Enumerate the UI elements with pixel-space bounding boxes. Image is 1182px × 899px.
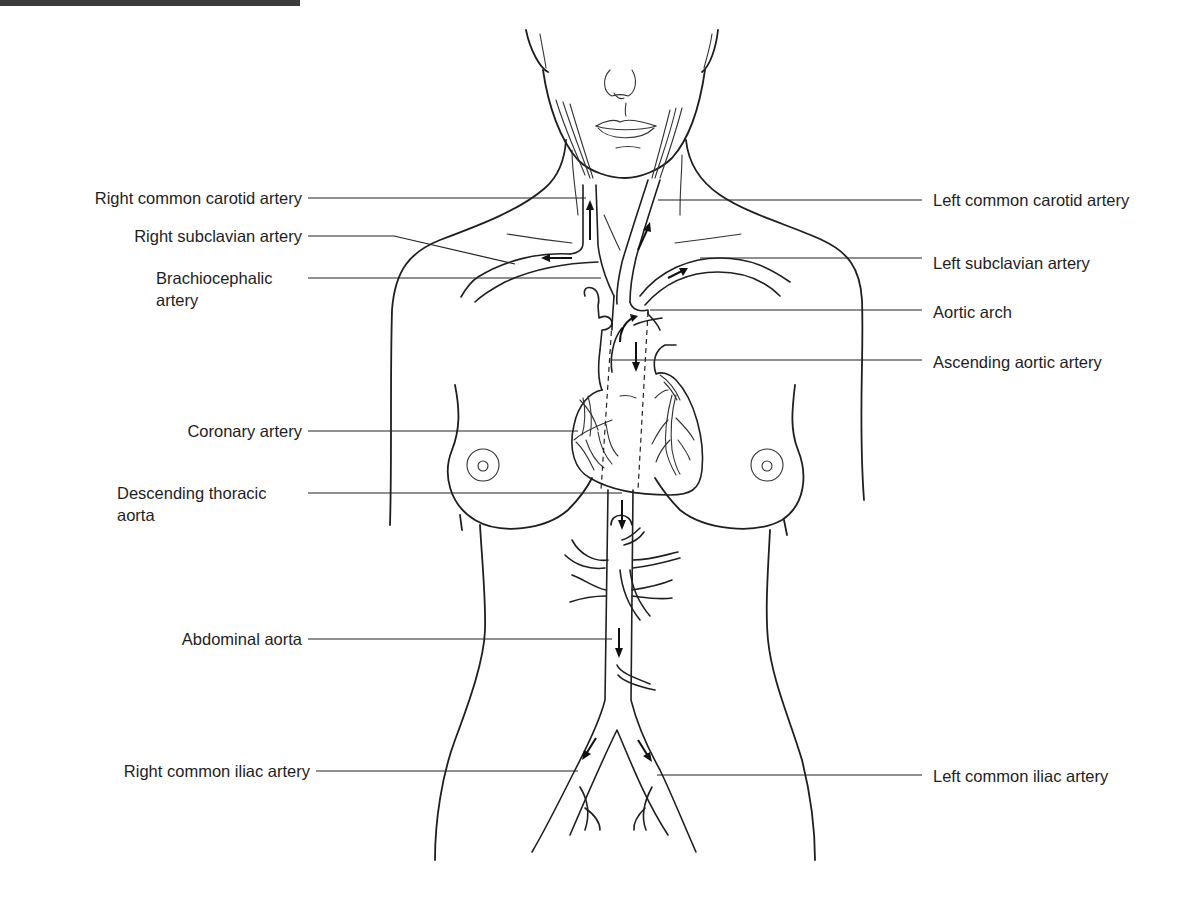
aorta-descending [532, 490, 696, 852]
label-right-common-carotid-artery: Right common carotid artery [40, 187, 302, 209]
label-left-common-iliac-artery: Left common iliac artery [933, 765, 1108, 787]
label-aortic-arch: Aortic arch [933, 301, 1012, 323]
label-left-subclavian-artery: Left subclavian artery [933, 252, 1090, 274]
label-right-common-iliac-artery: Right common iliac artery [40, 760, 310, 782]
label-brachiocephalic-artery: Brachiocephalic artery [156, 267, 296, 311]
label-left-common-carotid-artery: Left common carotid artery [933, 189, 1133, 211]
aorta-diagram: Right common carotid artery Right subcla… [0, 0, 1182, 899]
cropped-header-strip [0, 0, 300, 6]
face-features [596, 70, 656, 148]
leader-lines [308, 198, 922, 775]
carotid-arteries [570, 180, 660, 304]
subclavian-arteries [461, 254, 790, 305]
label-descending-thoracic-aorta: Descending thoracic aorta [117, 482, 299, 526]
heart [572, 287, 703, 495]
label-ascending-aortic-artery: Ascending aortic artery [933, 351, 1102, 373]
label-coronary-artery: Coronary artery [40, 420, 302, 442]
flow-arrows [541, 200, 688, 762]
label-abdominal-aorta: Abdominal aorta [40, 628, 302, 650]
label-right-subclavian-artery: Right subclavian artery [40, 225, 302, 247]
